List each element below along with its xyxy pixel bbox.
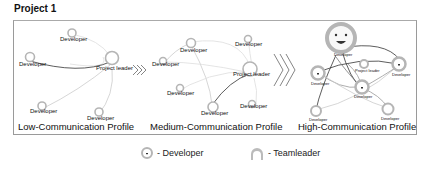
- node-label: Developer: [167, 90, 194, 96]
- node-label: Developer: [354, 94, 372, 99]
- leader-label: Project leader: [96, 65, 133, 71]
- arrow-2-icon: [274, 54, 295, 86]
- node-label: Developer: [180, 47, 207, 53]
- high-edges: [316, 46, 400, 110]
- leader-label: Project leader: [355, 68, 380, 73]
- node-label: Developer: [392, 72, 410, 77]
- node-label: Developer: [235, 41, 262, 47]
- medium-profile-label: Medium-Communication Profile: [150, 121, 283, 132]
- teamleader-legend-icon: [251, 148, 263, 160]
- node-label: Developer: [334, 52, 352, 57]
- low-profile-label: Low-Communication Profile: [18, 121, 134, 132]
- arrow-1-icon: [133, 65, 146, 75]
- node-label: Developer: [19, 61, 46, 67]
- high-profile-label: High-Communication Profile: [298, 121, 416, 132]
- legend-developer: - Developer: [157, 148, 204, 158]
- node-label: Developer: [152, 61, 179, 67]
- network-diagrams: [0, 0, 429, 169]
- low-nodes: [26, 29, 119, 116]
- node-label: Developer: [311, 81, 329, 86]
- node-label: Developer: [240, 103, 267, 109]
- legend-teamleader: - Teamleader: [268, 148, 320, 158]
- node-label: Developer: [201, 110, 228, 116]
- node-label: Developer: [30, 108, 57, 114]
- leader-label: Project leader: [233, 71, 270, 77]
- node-label: Developer: [60, 36, 87, 42]
